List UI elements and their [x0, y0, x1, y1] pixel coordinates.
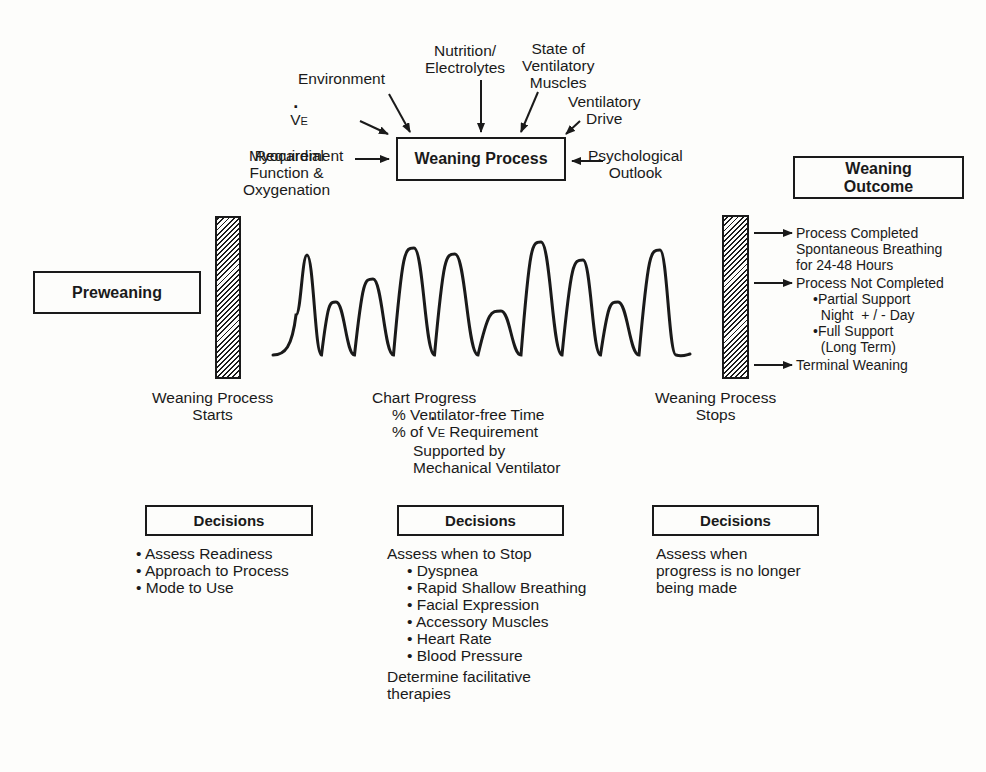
ve-symbol: VE — [290, 111, 308, 130]
line2-prefix: % of — [392, 423, 427, 440]
decision-item: • Dyspnea — [407, 562, 586, 579]
factor-nutrition: Nutrition/ Electrolytes — [425, 42, 505, 76]
factor-psychological-outlook: Psychological Outlook — [588, 147, 683, 181]
decision-item: • Facial Expression — [407, 596, 586, 613]
preweaning-label: Preweaning — [72, 284, 162, 302]
decisions-list-2: Assess when to Stop • Dyspnea • Rapid Sh… — [387, 545, 586, 702]
chart-progress: Chart Progress % Ventilator-free Time % … — [372, 389, 560, 476]
outcome-not-completed: Process Not Completed — [796, 275, 944, 291]
chart-progress-line2: % of VE Requirement — [392, 423, 560, 442]
chart-progress-line1: % Ventilator-free Time — [392, 406, 560, 423]
process-stop-bar — [722, 215, 749, 379]
weaning-outcome-label: Weaning Outcome — [844, 160, 913, 196]
outcome-terminal-weaning: Terminal Weaning — [796, 357, 908, 373]
factor-environment: Environment — [298, 70, 385, 87]
factor-myocardial-function: Myocardial Function & Oxygenation — [243, 147, 330, 198]
weaning-outcome-box: Weaning Outcome — [793, 156, 964, 199]
decision-item: • Mode to Use — [136, 579, 289, 596]
label-weaning-starts: Weaning Process Starts — [152, 389, 273, 423]
arrow-ve-requirement — [360, 121, 388, 134]
decisions-box-3: Decisions — [652, 505, 819, 536]
ve-symbol-letter: V — [427, 423, 437, 440]
decisions-box-1: Decisions — [145, 505, 313, 536]
decision-item: • Assess Readiness — [136, 545, 289, 562]
weaning-process-box: Weaning Process — [396, 137, 566, 181]
outcome-full-support: •Full Support (Long Term) — [813, 323, 896, 355]
factor-state-ventilatory-muscles: State of Ventilatory Muscles — [522, 40, 594, 91]
decision-footer: Determine facilitative therapies — [387, 668, 586, 702]
ve-subscript: E — [301, 115, 308, 127]
outcome-partial-support: •Partial Support Night + / - Day — [813, 291, 915, 323]
outcome-completed: Process Completed Spontaneous Breathing … — [796, 225, 942, 273]
factor-ventilatory-drive: Ventilatory Drive — [568, 93, 640, 127]
decision-item: • Accessory Muscles — [407, 613, 586, 630]
decisions-title: Decisions — [700, 512, 771, 530]
decisions-title: Decisions — [445, 512, 516, 530]
ve-symbol-letter: V — [290, 111, 300, 128]
decision-text-3: Assess when progress is no longer being … — [656, 545, 801, 596]
decision-item: • Approach to Process — [136, 562, 289, 579]
line2-suffix: Requirement — [445, 423, 538, 440]
ve-symbol: VE — [427, 423, 445, 442]
arrow-environment — [389, 94, 410, 132]
progress-wave — [273, 242, 690, 356]
decision-intro: Assess when to Stop — [387, 545, 586, 562]
process-start-bar — [215, 216, 241, 379]
decision-item: • Heart Rate — [407, 630, 586, 647]
decision-item: • Rapid Shallow Breathing — [407, 579, 586, 596]
decision-item: • Blood Pressure — [407, 647, 586, 664]
decisions-title: Decisions — [194, 512, 265, 530]
preweaning-box: Preweaning — [33, 271, 201, 314]
ve-subscript: E — [438, 427, 445, 439]
chart-progress-title: Chart Progress — [372, 389, 560, 406]
arrow-state-muscles — [521, 92, 538, 132]
chart-progress-line3: Supported by Mechanical Ventilator — [413, 442, 560, 476]
decisions-box-2: Decisions — [397, 505, 564, 536]
decisions-list-1: • Assess Readiness • Approach to Process… — [136, 545, 289, 596]
label-weaning-stops: Weaning Process Stops — [655, 389, 776, 423]
weaning-process-label: Weaning Process — [414, 150, 547, 168]
